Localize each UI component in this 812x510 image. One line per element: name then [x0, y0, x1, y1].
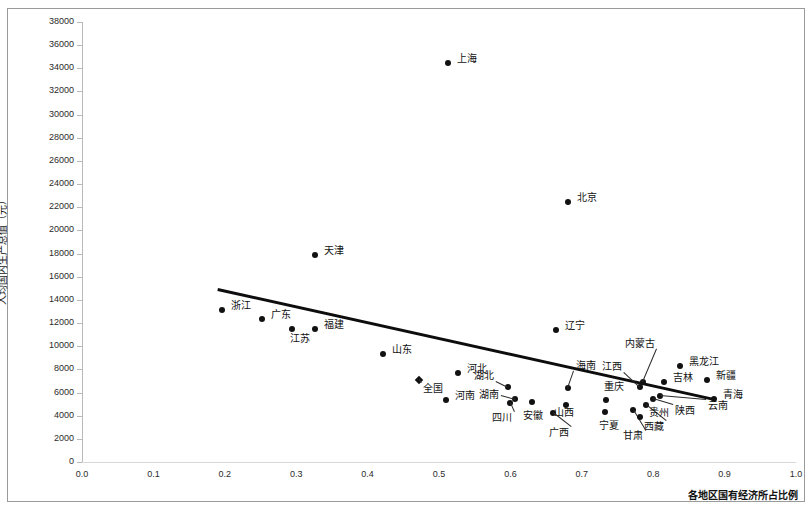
y-tick-label: 34000: [28, 63, 74, 72]
x-tick-label: 0.4: [348, 470, 388, 479]
x-tick-label: 0.1: [133, 470, 173, 479]
data-point-label: 广西: [549, 428, 569, 438]
data-point-label: 山东: [392, 345, 412, 355]
y-tick-label: 2000: [28, 434, 74, 443]
x-tick-label: 0.5: [419, 470, 459, 479]
data-point[interactable]: [565, 199, 571, 205]
y-tick-label: 10000: [28, 341, 74, 350]
y-tick-label: 36000: [28, 40, 74, 49]
data-point-label: 内蒙古: [625, 339, 655, 349]
data-point-label: 上海: [457, 54, 477, 64]
data-point-label: 宁夏: [599, 421, 619, 431]
data-point[interactable]: [661, 379, 667, 385]
y-tick-label: 4000: [28, 411, 74, 420]
x-tick-label: 0.9: [705, 470, 745, 479]
y-tick-label: 0: [28, 457, 74, 466]
data-point-label: 福建: [324, 320, 344, 330]
x-tick-label: 1.0: [776, 470, 812, 479]
data-point-label: 重庆: [604, 382, 624, 392]
data-point-label: 北京: [577, 193, 597, 203]
x-tick-label: 0.0: [62, 470, 102, 479]
data-point-label: 天津: [324, 246, 344, 256]
y-tick-label: 38000: [28, 17, 74, 26]
data-point-label: 四川: [492, 413, 512, 423]
data-point-label: 广东: [271, 310, 291, 320]
data-point-label: 云南: [708, 401, 728, 411]
data-point-label: 西藏: [644, 422, 664, 432]
data-point-label: 辽宁: [565, 321, 585, 331]
data-point-label: 江西: [602, 362, 622, 372]
data-point-label: 黑龙江: [689, 357, 719, 367]
data-point-label: 江苏: [290, 334, 310, 344]
scatter-chart-figure: 人均国内生产总值（元） 各地区国有经济所占比例 0200040006000800…: [0, 0, 812, 510]
data-point-label: 甘肃: [623, 431, 643, 441]
data-point[interactable]: [602, 409, 608, 415]
data-point-label: 新疆: [716, 371, 736, 381]
data-point[interactable]: [445, 60, 451, 66]
x-tick-label: 0.7: [562, 470, 602, 479]
y-tick-label: 32000: [28, 86, 74, 95]
y-tick-label: 16000: [28, 272, 74, 281]
y-tick-label: 30000: [28, 110, 74, 119]
y-tick-mark: [77, 462, 82, 463]
x-axis-title: 各地区国有经济所占比例: [688, 487, 798, 502]
y-tick-label: 14000: [28, 295, 74, 304]
y-tick-label: 22000: [28, 202, 74, 211]
data-point-label: 浙江: [231, 301, 251, 311]
y-tick-label: 12000: [28, 318, 74, 327]
y-axis-title: 人均国内生产总值（元）: [0, 150, 9, 350]
data-point-label: 湖北: [474, 371, 494, 381]
y-tick-label: 8000: [28, 364, 74, 373]
data-point-label: 湖南: [479, 390, 499, 400]
y-tick-label: 24000: [28, 179, 74, 188]
data-point-label: 青海: [723, 390, 743, 400]
y-tick-label: 26000: [28, 156, 74, 165]
x-tick-label: 0.2: [205, 470, 245, 479]
data-point-label: 贵州: [649, 408, 669, 418]
data-point-label: 安徽: [523, 411, 543, 421]
data-point-label: 陕西: [675, 406, 695, 416]
data-point-label: 吉林: [673, 373, 693, 383]
y-tick-label: 20000: [28, 225, 74, 234]
x-tick-label: 0.8: [633, 470, 673, 479]
y-tick-label: 18000: [28, 249, 74, 258]
x-tick-label: 0.6: [490, 470, 530, 479]
x-axis-line: [82, 462, 796, 463]
data-point[interactable]: [259, 316, 265, 322]
data-point-label: 海南: [576, 361, 596, 371]
data-point-label: 河南: [455, 391, 475, 401]
data-point-label: 全国: [423, 384, 443, 394]
plot-area: [82, 22, 796, 462]
y-tick-label: 6000: [28, 388, 74, 397]
y-tick-label: 28000: [28, 133, 74, 142]
x-tick-label: 0.3: [276, 470, 316, 479]
